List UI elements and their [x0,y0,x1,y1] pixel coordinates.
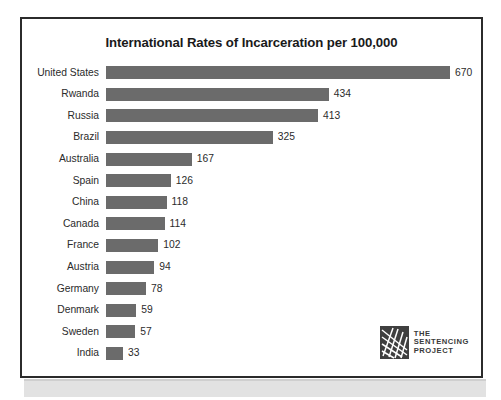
bar-value-label: 33 [128,348,139,358]
bar-row: United States670 [22,62,481,84]
bar-row: Rwanda434 [22,84,481,106]
bar-value-label: 57 [140,327,151,337]
logo-wordmark: THE SENTENCING PROJECT [414,330,469,356]
bar-row: Austria94 [22,256,481,278]
bar-category-label: Sweden [22,327,106,337]
bar [106,239,158,252]
bar [106,261,154,274]
bar-track: 325 [106,127,481,149]
bar-category-label: France [22,240,106,250]
bar [106,347,123,360]
bar-track: 670 [106,62,481,84]
bar [106,153,192,166]
bar [106,109,318,122]
bar-category-label: Rwanda [22,89,106,99]
bar [106,174,171,187]
bar-row: China118 [22,192,481,214]
bar-value-label: 413 [323,111,340,121]
bar-chart-plot-area: United States670Rwanda434Russia413Brazil… [22,62,481,364]
bar-track: 78 [106,278,481,300]
bar-category-label: China [22,197,106,207]
bar-track: 114 [106,213,481,235]
bar-track: 167 [106,148,481,170]
bar [106,325,135,338]
bar-category-label: India [22,348,106,358]
bar-row: Canada114 [22,213,481,235]
bar-value-label: 670 [455,68,472,78]
bar-row: Germany78 [22,278,481,300]
bar-category-label: Australia [22,154,106,164]
chart-figure-frame: International Rates of Incarceration per… [20,17,483,378]
bar-value-label: 78 [151,284,162,294]
bar-category-label: Russia [22,111,106,121]
bar-track: 434 [106,84,481,106]
bar-track: 126 [106,170,481,192]
bar-track: 94 [106,256,481,278]
bar-row: Denmark59 [22,300,481,322]
bar [106,196,167,209]
bar-row: Brazil325 [22,127,481,149]
bar [106,217,165,230]
bar-track: 59 [106,300,481,322]
bar-value-label: 102 [163,240,180,250]
bar [106,304,136,317]
bar-row: France102 [22,235,481,257]
bar-value-label: 325 [278,132,295,142]
bar [106,88,329,101]
bar [106,66,450,79]
bar-category-label: Spain [22,176,106,186]
logo-line-project: PROJECT [414,347,469,356]
bar-value-label: 126 [176,176,193,186]
bar-value-label: 114 [170,219,186,229]
bar-category-label: United States [22,68,106,78]
bar-value-label: 59 [141,305,152,315]
sentencing-project-logo: THE SENTENCING PROJECT [380,326,469,359]
bar-category-label: Brazil [22,132,106,142]
bar-category-label: Austria [22,262,106,272]
bar [106,282,146,295]
bar-track: 118 [106,192,481,214]
bar-row: Spain126 [22,170,481,192]
bar-category-label: Germany [22,284,106,294]
bar-value-label: 167 [197,154,214,164]
bar-value-label: 94 [159,262,170,272]
bar-row: Australia167 [22,148,481,170]
page-shadow-band [24,381,486,397]
bar-row: Russia413 [22,105,481,127]
bar-value-label: 118 [172,197,188,207]
bar-track: 102 [106,235,481,257]
bar-track: 413 [106,105,481,127]
sentencing-project-weave-mark [380,326,409,359]
bar-value-label: 434 [334,89,351,99]
bar [106,131,273,144]
bar-category-label: Denmark [22,305,106,315]
chart-title: International Rates of Incarceration per… [22,35,481,50]
bar-category-label: Canada [22,219,106,229]
